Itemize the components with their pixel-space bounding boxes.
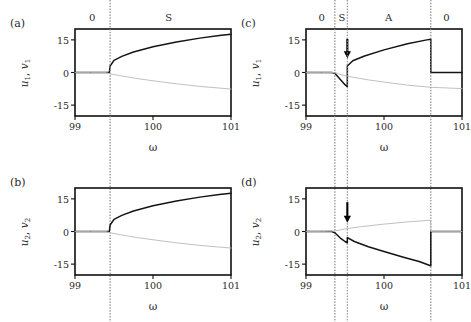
curve-unstable-branch bbox=[306, 220, 462, 231]
arrow-head-0 bbox=[344, 216, 351, 223]
curve-stable-branch bbox=[306, 232, 462, 266]
